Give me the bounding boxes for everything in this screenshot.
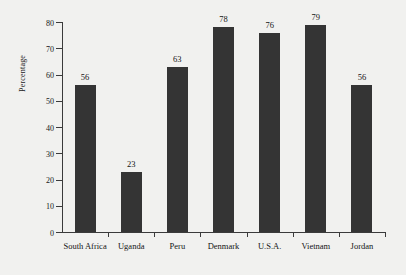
category-label: Denmark <box>208 241 240 251</box>
x-tick <box>339 232 340 237</box>
bar-value-label: 56 <box>358 72 367 82</box>
y-tick-label: 0 <box>50 228 54 237</box>
y-tick: 40 <box>56 127 62 128</box>
y-tick: 20 <box>56 180 62 181</box>
y-tick: 50 <box>56 101 62 102</box>
category-label: Jordan <box>351 241 374 251</box>
bar <box>121 172 142 232</box>
y-tick-label: 80 <box>46 18 54 27</box>
y-tick-label: 70 <box>46 44 54 53</box>
y-tick: 30 <box>56 153 62 154</box>
bar-value-label: 78 <box>219 14 228 24</box>
bar <box>351 85 372 232</box>
y-tick: 0 <box>56 232 62 233</box>
y-tick: 60 <box>56 75 62 76</box>
bar-value-label: 76 <box>265 20 274 30</box>
bar-value-label: 23 <box>127 159 136 169</box>
x-tick <box>154 232 155 237</box>
y-tick-label: 50 <box>46 97 54 106</box>
category-label: South Africa <box>63 241 106 251</box>
y-axis-title: Percentage <box>18 2 27 92</box>
y-tick-label: 20 <box>46 176 54 185</box>
category-label: Peru <box>170 241 186 251</box>
x-tick <box>293 232 294 237</box>
y-tick-label: 30 <box>46 149 54 158</box>
y-axis-line <box>62 22 63 233</box>
y-tick: 70 <box>56 48 62 49</box>
x-tick <box>385 232 386 237</box>
y-tick-label: 40 <box>46 123 54 132</box>
bar-value-label: 79 <box>312 12 321 22</box>
category-label: Vietnam <box>301 241 330 251</box>
y-tick-label: 60 <box>46 71 54 80</box>
category-label: U.S.A. <box>258 241 281 251</box>
bar-value-label: 56 <box>81 72 90 82</box>
y-tick: 10 <box>56 206 62 207</box>
y-tick: 80 <box>56 22 62 23</box>
bar-value-label: 63 <box>173 54 182 64</box>
category-label: Uganda <box>118 241 144 251</box>
x-tick <box>200 232 201 237</box>
bar <box>259 33 280 233</box>
bar-chart: Percentage 01020304050607080 56236378767… <box>0 0 406 275</box>
bar <box>305 25 326 232</box>
x-tick <box>108 232 109 237</box>
y-tick-label: 10 <box>46 202 54 211</box>
bar <box>167 67 188 232</box>
bar <box>75 85 96 232</box>
x-axis-line <box>62 232 385 233</box>
bar <box>213 27 234 232</box>
x-tick <box>247 232 248 237</box>
